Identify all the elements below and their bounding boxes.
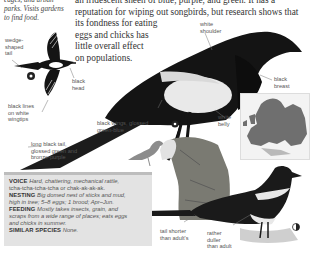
label-rather-duller: rather duller than adult xyxy=(207,230,232,250)
label-line: belly xyxy=(218,121,231,128)
label-black-breast: black breast xyxy=(274,76,290,89)
nesting-label: NESTING xyxy=(9,192,35,198)
feeding-text-2: scraps from a wide range of places; eats… xyxy=(9,213,127,219)
flight-pattern-icon xyxy=(27,72,35,80)
voice-text: Hard, chattering, mechanical rattle, xyxy=(29,178,119,184)
label-line: white xyxy=(218,114,231,121)
species-info-box: VOICE Hard, chattering, mechanical rattl… xyxy=(4,172,152,246)
feeding-section: FEEDING Mostly takes insects, grain, and xyxy=(9,206,149,213)
label-black-wings: black wings, glossed green-blue xyxy=(97,120,148,133)
voice-section: VOICE Hard, chattering, mechanical rattl… xyxy=(9,178,149,185)
similar-species-section: SIMILAR SPECIES None. xyxy=(9,227,149,234)
label-white-shoulder: white shoulder xyxy=(200,21,221,34)
range-map xyxy=(240,93,310,160)
nesting-text-2: high in tree; 5–8 eggs; 1 brood; Apr–Jun… xyxy=(9,199,114,205)
label-line: on white xyxy=(8,110,34,117)
label-line: shaped xyxy=(5,44,23,51)
label-line: breast xyxy=(274,83,290,90)
label-line: wingtips xyxy=(8,116,34,123)
nesting-section: NESTING Big domed nest of sticks and mud… xyxy=(9,192,149,199)
label-line: black xyxy=(72,78,85,85)
feeding-text: Mostly takes insects, grain, and xyxy=(37,206,118,212)
label-line: long black tail, xyxy=(31,141,77,148)
info-box-top-bar xyxy=(4,172,152,175)
feeding-label: FEEDING xyxy=(9,206,35,212)
label-line: tail shorter xyxy=(160,228,188,235)
label-line: bronze-purple xyxy=(31,154,77,161)
label-line: head xyxy=(72,85,85,92)
label-line: glossed green and xyxy=(31,148,77,155)
label-black-head: black head xyxy=(72,78,85,91)
label-line: rather xyxy=(207,230,232,237)
label-long-black-tail: long black tail, glossed green and bronz… xyxy=(31,141,77,161)
label-line: black lines xyxy=(8,103,34,110)
nesting-text: Big domed nest of sticks and mud, xyxy=(37,192,126,198)
similar-species-text: None. xyxy=(63,227,78,233)
label-line: than adult's xyxy=(160,235,188,242)
label-line: tail xyxy=(5,50,23,57)
label-black-lines-wingtips: black lines on white wingtips xyxy=(8,103,34,123)
label-line: duller xyxy=(207,237,232,244)
label-line: shoulder xyxy=(200,28,221,35)
feeding-text-3: and chicks in summer. xyxy=(9,220,66,226)
label-wedge-shaped-tail: wedge- shaped tail xyxy=(5,37,23,57)
label-line: black wings, glossed xyxy=(97,120,148,127)
label-line: than adult xyxy=(207,243,232,250)
juvenile-age-icon xyxy=(293,224,300,231)
label-tail-shorter: tail shorter than adult's xyxy=(160,228,188,241)
label-line: black xyxy=(274,76,290,83)
similar-species-label: SIMILAR SPECIES xyxy=(9,227,61,233)
europe-range-map-icon xyxy=(241,94,309,159)
size-comparison-silhouettes xyxy=(128,139,176,166)
label-white-belly: white belly xyxy=(218,114,231,127)
perching-pattern-icon xyxy=(172,121,179,128)
voice-label: VOICE xyxy=(9,178,28,184)
label-line: wedge- xyxy=(5,37,23,44)
voice-text-2: tcha-tcha-tcha-tcha or chak-ak-ak-ak. xyxy=(9,185,149,192)
info-text: VOICE Hard, chattering, mechanical rattl… xyxy=(9,178,149,234)
label-line: green-blue xyxy=(97,127,148,134)
label-line: white xyxy=(200,21,221,28)
